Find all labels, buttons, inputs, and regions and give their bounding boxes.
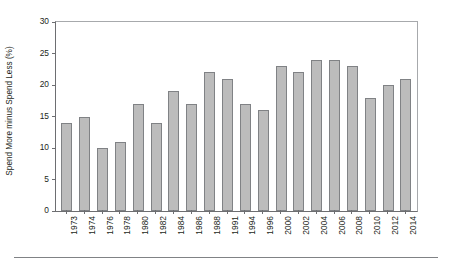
x-tick [146,210,164,215]
bar-cell [165,22,183,211]
bar-cell [379,22,397,211]
bar [240,104,251,211]
x-tick [378,210,396,215]
x-label-cell: 1994 [235,216,253,250]
x-tick [111,210,129,215]
bar-cell [344,22,362,211]
x-label-cell: 1978 [111,216,129,250]
x-axis-ticks [55,210,416,215]
y-tick-label: 10 [40,142,49,153]
x-tick [396,210,414,215]
x-label-cell: 2014 [396,216,414,250]
chart-figure: Spend More minus Spend Less (%) 05101520… [0,0,452,274]
x-label-cell: 2006 [325,216,343,250]
bar-cell [112,22,130,211]
y-tick-label: 20 [40,79,49,90]
x-tick [307,210,325,215]
bar [115,142,126,211]
x-label-cell: 1991 [218,216,236,250]
x-tick-mark [334,210,335,214]
x-tick-mark [137,210,138,214]
x-tick [57,210,75,215]
y-tick-label: 30 [40,16,49,27]
x-label-cell: 1996 [253,216,271,250]
x-tick-mark [262,210,263,214]
x-tick [75,210,93,215]
x-tick-mark [102,210,103,214]
bar-series [56,22,417,211]
x-tick [200,210,218,215]
x-label-cell: 2012 [378,216,396,250]
x-label-cell: 1973 [57,216,75,250]
bar [311,60,322,211]
x-tick [343,210,361,215]
x-tick [218,210,236,215]
y-tick-label: 15 [40,111,49,122]
bar-cell [397,22,415,211]
y-tick-label: 25 [40,48,49,59]
x-tick [325,210,343,215]
x-tick-mark [66,210,67,214]
bar [276,66,287,211]
x-label-cell: 2008 [343,216,361,250]
x-tick [253,210,271,215]
x-tick [360,210,378,215]
bar [365,98,376,211]
x-tick-mark [84,210,85,214]
x-tick-mark [298,210,299,214]
x-tick [128,210,146,215]
x-tick-mark [191,210,192,214]
bar [151,123,162,211]
bar-cell [76,22,94,211]
x-label-cell: 2004 [307,216,325,250]
bar-cell [361,22,379,211]
x-tick-mark [227,210,228,214]
y-axis-title-text: Spend More minus Spend Less (%) [6,46,14,175]
x-tick-mark [280,210,281,214]
plot-area: 051015202530 [55,21,418,212]
footer-rule [14,257,438,258]
x-label-cell: 1974 [75,216,93,250]
bar [293,72,304,211]
x-tick-mark [209,210,210,214]
bar-cell [254,22,272,211]
x-tick [271,210,289,215]
bar-cell [308,22,326,211]
bar [186,104,197,211]
x-axis-labels: 1973197419761978198019821984198619881991… [55,216,416,250]
bar-cell [219,22,237,211]
bar-cell [129,22,147,211]
bar [329,60,340,211]
bar [347,66,358,211]
bar [383,85,394,211]
bar [61,123,72,211]
x-label-cell: 2000 [271,216,289,250]
y-tick-label: 5 [44,174,49,185]
x-tick-mark [387,210,388,214]
x-tick-mark [351,210,352,214]
x-label-cell: 1982 [146,216,164,250]
x-tick-mark [405,210,406,214]
bar-cell [183,22,201,211]
bar [400,79,411,211]
bar [204,72,215,211]
bar-cell [201,22,219,211]
x-tick-label: 2014 [409,216,418,235]
x-label-cell: 2010 [360,216,378,250]
x-label-cell: 1988 [200,216,218,250]
x-tick [235,210,253,215]
bar-cell [58,22,76,211]
x-tick [289,210,307,215]
y-axis-title: Spend More minus Spend Less (%) [2,16,18,206]
x-tick [93,210,111,215]
x-tick-mark [119,210,120,214]
x-tick-mark [369,210,370,214]
x-label-cell: 1984 [164,216,182,250]
x-tick-mark [155,210,156,214]
bar [97,148,108,211]
x-label-cell: 1986 [182,216,200,250]
x-tick [164,210,182,215]
bar [258,110,269,211]
bar-cell [236,22,254,211]
x-tick-mark [316,210,317,214]
